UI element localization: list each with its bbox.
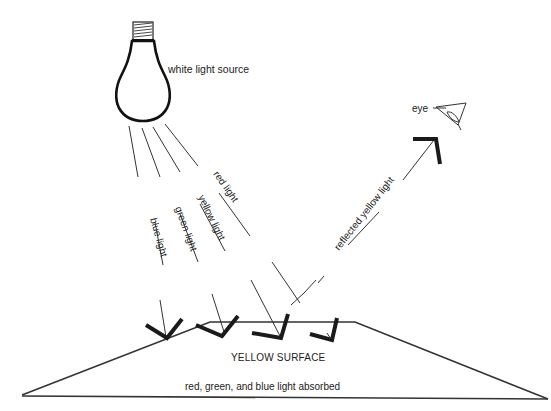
reflected-light-label: reflected yellow light xyxy=(332,174,396,252)
light-bulb-icon xyxy=(116,22,170,121)
yellow-light-label: yellow light xyxy=(196,193,227,242)
reflected-arrowhead-icon xyxy=(413,139,440,164)
diagram-canvas: white light source blue light green ligh… xyxy=(0,0,551,411)
eye-icon xyxy=(433,103,466,130)
incident-rays-upper xyxy=(129,124,198,177)
reflected-ray xyxy=(291,139,440,305)
eye-label: eye xyxy=(412,103,429,114)
absorbed-label: red, green, and blue light absorbed xyxy=(185,381,340,392)
red-light-label: red light xyxy=(211,169,241,205)
green-arrowhead-icon xyxy=(196,316,238,336)
blue-light-label: blue light xyxy=(148,217,170,259)
light-source-label: white light source xyxy=(167,63,249,75)
green-light-label: green light xyxy=(173,205,199,253)
surface-label: YELLOW SURFACE xyxy=(231,352,326,363)
